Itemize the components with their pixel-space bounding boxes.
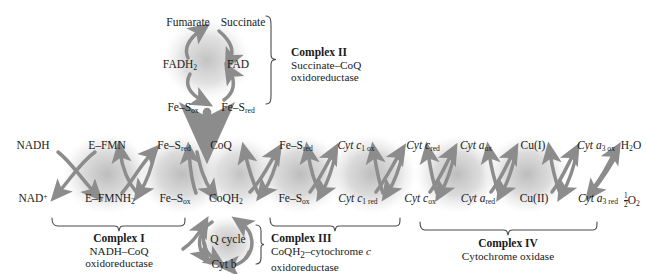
- label-cyt-a-red: Cyt ared: [461, 193, 495, 205]
- label-fes-red-c3: Fe–Sred: [279, 140, 312, 152]
- label-fes-red-c1: Fe–Sred: [157, 140, 190, 152]
- bracket-complex1: [52, 218, 185, 231]
- label-cu-ii: Cu(II): [520, 193, 549, 205]
- bracket-qcycle: [256, 225, 264, 264]
- label-coqh2: CoQH2: [209, 193, 243, 205]
- complex1-title: Complex I: [85, 232, 153, 245]
- complex3-title: Complex III: [271, 232, 371, 245]
- label-coq: CoQ: [210, 140, 232, 152]
- label-fes-ox-c2: Fe–Sox: [167, 102, 198, 114]
- label-e-fmnh2: E–FMNH2: [85, 193, 135, 205]
- label-cyt-c-red: Cyt cred: [406, 140, 440, 152]
- label-cyt-c-ox: Cyt cox: [404, 193, 436, 205]
- label-cu-i: Cu(I): [521, 140, 546, 152]
- complex2-line2: oxidoreductase: [291, 71, 361, 83]
- bracket-complex4: [420, 222, 597, 235]
- label-cyt-c1-red: Cyt c1 red: [338, 193, 377, 205]
- caption-complex4: Complex IV Cytochrome oxidase: [462, 237, 554, 262]
- complex1-line2: oxidoreductase: [85, 257, 153, 269]
- complex2-line1: Succinate–CoQ: [291, 59, 361, 71]
- label-succinate: Succinate: [221, 17, 266, 29]
- caption-complex2: Complex II Succinate–CoQ oxidoreductase: [291, 46, 361, 83]
- label-nadh: NADH: [16, 140, 49, 152]
- label-q-cycle: Q cycle: [210, 234, 245, 246]
- bracket-complex2: [266, 16, 276, 104]
- label-nad-plus: NAD+: [18, 193, 47, 205]
- label-fes-ox-c1: Fe–Sox: [159, 193, 190, 205]
- label-half-oxygen: 12O2: [624, 192, 640, 208]
- complex3-line2: oxidoreductase: [271, 261, 371, 273]
- bracket-complex3: [270, 218, 400, 231]
- label-cyt-a3-red: Cyt a3 red: [578, 193, 618, 205]
- label-cyt-c1-ox: Cyt c1 ox: [337, 140, 374, 152]
- complex4-line1: Cytochrome oxidase: [462, 250, 554, 262]
- label-fes-ox-c3: Fe–Sox: [278, 193, 309, 205]
- label-fad: FAD: [227, 59, 249, 71]
- complex1-line1: NADH–CoQ: [85, 245, 153, 257]
- caption-complex1: Complex I NADH–CoQ oxidoreductase: [85, 232, 153, 269]
- caption-complex3: Complex III CoQH2–cytochrome c oxidoredu…: [271, 232, 371, 274]
- label-water: H2O: [621, 140, 641, 152]
- label-fadh2: FADH2: [163, 59, 197, 71]
- label-cyt-b: Cyt b: [211, 259, 236, 271]
- label-fes-red-c2: Fe–Sred: [221, 102, 254, 114]
- label-cyt-a3-ox: Cyt a3 ox: [577, 140, 615, 152]
- complex4-title: Complex IV: [462, 237, 554, 250]
- label-fumarate: Fumarate: [166, 17, 209, 29]
- label-e-fmn: E–FMN: [88, 140, 126, 152]
- label-cyt-a-ox: Cyt aox: [460, 140, 492, 152]
- complex3-line1: CoQH2–cytochrome c: [271, 245, 371, 262]
- complex2-title: Complex II: [291, 46, 361, 59]
